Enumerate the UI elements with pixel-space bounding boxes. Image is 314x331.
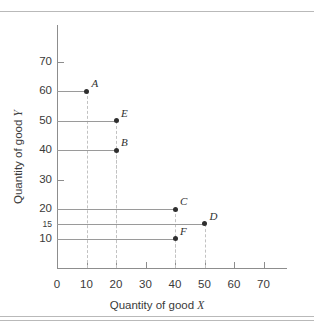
data-point-b	[114, 148, 119, 153]
horizontal-guide-line	[57, 209, 175, 210]
x-axis-title-text: Quantity of good	[110, 299, 198, 311]
x-axis-tick	[234, 262, 235, 269]
x-axis-tick-label: 0	[54, 279, 60, 291]
data-point-label-b: B	[121, 137, 128, 148]
x-axis-tick-label: 50	[198, 279, 211, 291]
x-axis-tick-label: 70	[257, 279, 270, 291]
y-axis-tick	[57, 62, 64, 63]
figure: AEBCDF Quantity of good Y Quantity of go…	[0, 0, 314, 331]
y-axis-title: Quantity of good Y	[12, 110, 24, 204]
y-axis-tick-label: 40	[26, 144, 52, 156]
vertical-guide-line	[175, 239, 176, 269]
data-point-d	[202, 221, 207, 226]
y-axis-tick-label: 15	[26, 220, 52, 229]
data-point-label-e: E	[121, 108, 128, 119]
x-axis-title-variable: X	[197, 299, 204, 311]
x-axis-title: Quantity of good X	[0, 299, 314, 311]
vertical-guide-line	[87, 91, 88, 268]
y-axis-tick-label: 10	[26, 233, 52, 245]
data-point-label-c: C	[180, 196, 187, 207]
x-axis-tick-label: 60	[228, 279, 241, 291]
x-axis-tick-label: 10	[80, 279, 93, 291]
y-axis-title-variable: Y	[12, 110, 24, 116]
data-point-a	[84, 89, 89, 94]
data-point-f	[173, 236, 178, 241]
x-axis-tick-label: 30	[139, 279, 152, 291]
data-point-label-a: A	[92, 78, 99, 89]
data-point-label-f: F	[180, 226, 187, 237]
y-axis-tick-label: 50	[26, 115, 52, 127]
data-point-c	[173, 207, 178, 212]
x-axis-line	[57, 268, 287, 269]
x-axis-tick	[264, 262, 265, 269]
horizontal-guide-line	[57, 239, 175, 240]
vertical-guide-line	[205, 224, 206, 268]
y-axis-tick-label: 60	[26, 85, 52, 97]
x-axis-tick-label: 40	[169, 279, 182, 291]
horizontal-guide-line	[57, 121, 116, 122]
x-axis-tick-label: 20	[110, 279, 123, 291]
y-axis-tick-label: 30	[26, 174, 52, 186]
y-axis-tick-label: 70	[26, 56, 52, 68]
x-axis-tick	[146, 262, 147, 269]
data-point-e	[114, 118, 119, 123]
horizontal-guide-line	[57, 150, 116, 151]
y-axis-tick	[57, 180, 64, 181]
data-point-label-d: D	[210, 211, 218, 222]
y-axis-title-text: Quantity of good	[12, 116, 24, 204]
y-axis-tick-label: 20	[26, 203, 52, 215]
horizontal-guide-line	[57, 91, 87, 92]
